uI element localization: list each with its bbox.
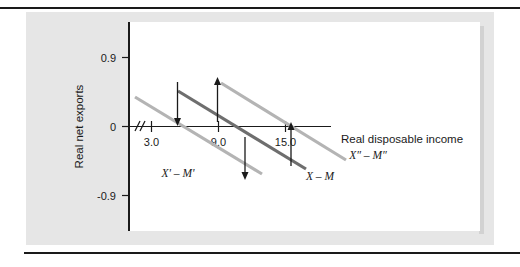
curve-label-x-minus-m: X – M	[305, 170, 336, 182]
y-tick-label-0: 0.9	[101, 52, 116, 64]
y-axis-ticks	[122, 58, 129, 196]
curve-x-minus-m	[178, 91, 306, 169]
y-tick-label-2: -0.9	[97, 190, 116, 202]
axes	[129, 22, 331, 231]
curve-label-x-double-prime-minus-m-double-prime: X″ – M″	[348, 149, 387, 161]
x-tick-label-2: 15.0	[275, 136, 296, 148]
x-axis-title: Real disposable income	[341, 133, 463, 145]
shift-down-arrow-lower	[242, 137, 249, 180]
bottom-rule	[24, 252, 520, 254]
curve-label-x-prime-minus-m-prime: X' – M'	[160, 167, 195, 179]
figure-page: 0.9 0 -0.9 3.0 9.0 15.0 Real disposable …	[0, 0, 520, 267]
chart-svg: 0.9 0 -0.9 3.0 9.0 15.0 Real disposable …	[0, 0, 520, 267]
y-axis-title: Real net exports	[73, 84, 85, 168]
curve-x-double-prime-minus-m-double-prime	[221, 83, 346, 160]
y-tick-label-1: 0	[110, 121, 116, 133]
shift-down-arrow-upper	[174, 82, 181, 126]
x-tick-label-0: 3.0	[144, 136, 159, 148]
